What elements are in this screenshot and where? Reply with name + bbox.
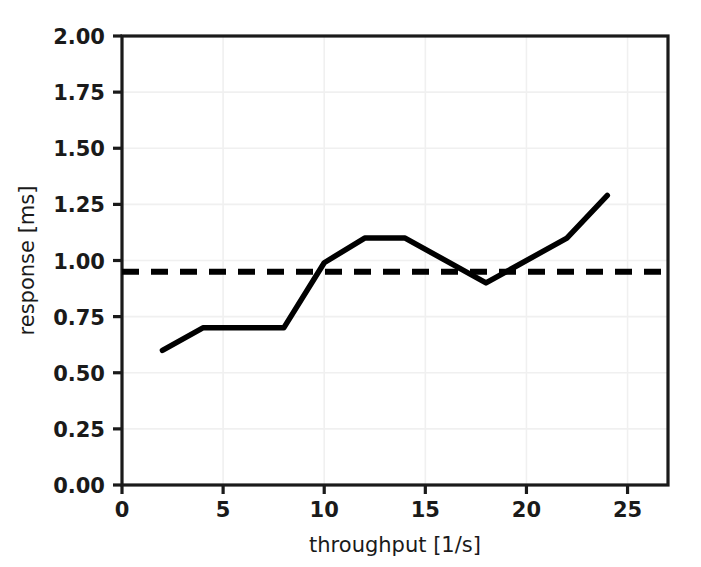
x-tick-label: 15 [411,498,440,522]
y-tick-label: 1.25 [53,193,105,217]
x-tick-label: 10 [310,498,339,522]
x-axis-label: throughput [1/s] [309,533,481,557]
y-axis-tick-labels: 0.000.250.500.751.001.251.501.752.00 [53,25,105,498]
x-tick-label: 5 [216,498,231,522]
y-tick-label: 2.00 [53,25,105,49]
x-tick-label: 20 [512,498,541,522]
y-tick-label: 0.00 [53,474,105,498]
x-tick-label: 0 [115,498,130,522]
x-tick-label: 25 [613,498,642,522]
y-axis-label: response [ms] [15,186,39,336]
y-tick-label: 0.75 [53,306,105,330]
y-tick-label: 0.50 [53,362,105,386]
y-tick-label: 1.00 [53,250,105,274]
y-tick-label: 1.75 [53,81,105,105]
y-tick-label: 0.25 [53,418,105,442]
line-chart: 0.000.250.500.751.001.251.501.752.00 051… [0,0,701,567]
y-tick-label: 1.50 [53,137,105,161]
chart-figure: 0.000.250.500.751.001.251.501.752.00 051… [0,0,701,567]
